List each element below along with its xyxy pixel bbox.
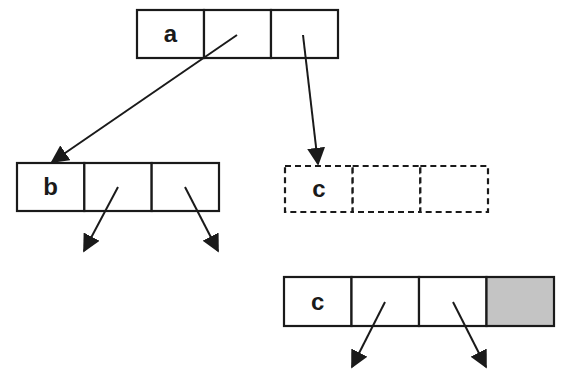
node-label: c xyxy=(311,288,324,315)
nodes-layer: abcc xyxy=(17,10,554,326)
pointer-cell xyxy=(419,277,487,326)
node-a: a xyxy=(137,10,338,58)
node-c-dashed: c xyxy=(285,166,488,212)
shaded-cell xyxy=(487,277,555,326)
node-label: b xyxy=(43,173,58,200)
node-label: c xyxy=(312,175,325,202)
pointer-diagram: abcc xyxy=(0,0,569,384)
node-c-solid: c xyxy=(284,277,554,326)
pointer-cell xyxy=(353,166,421,212)
node-label: a xyxy=(164,20,178,47)
pointer-cell xyxy=(420,166,488,212)
pointer-cell xyxy=(352,277,420,326)
